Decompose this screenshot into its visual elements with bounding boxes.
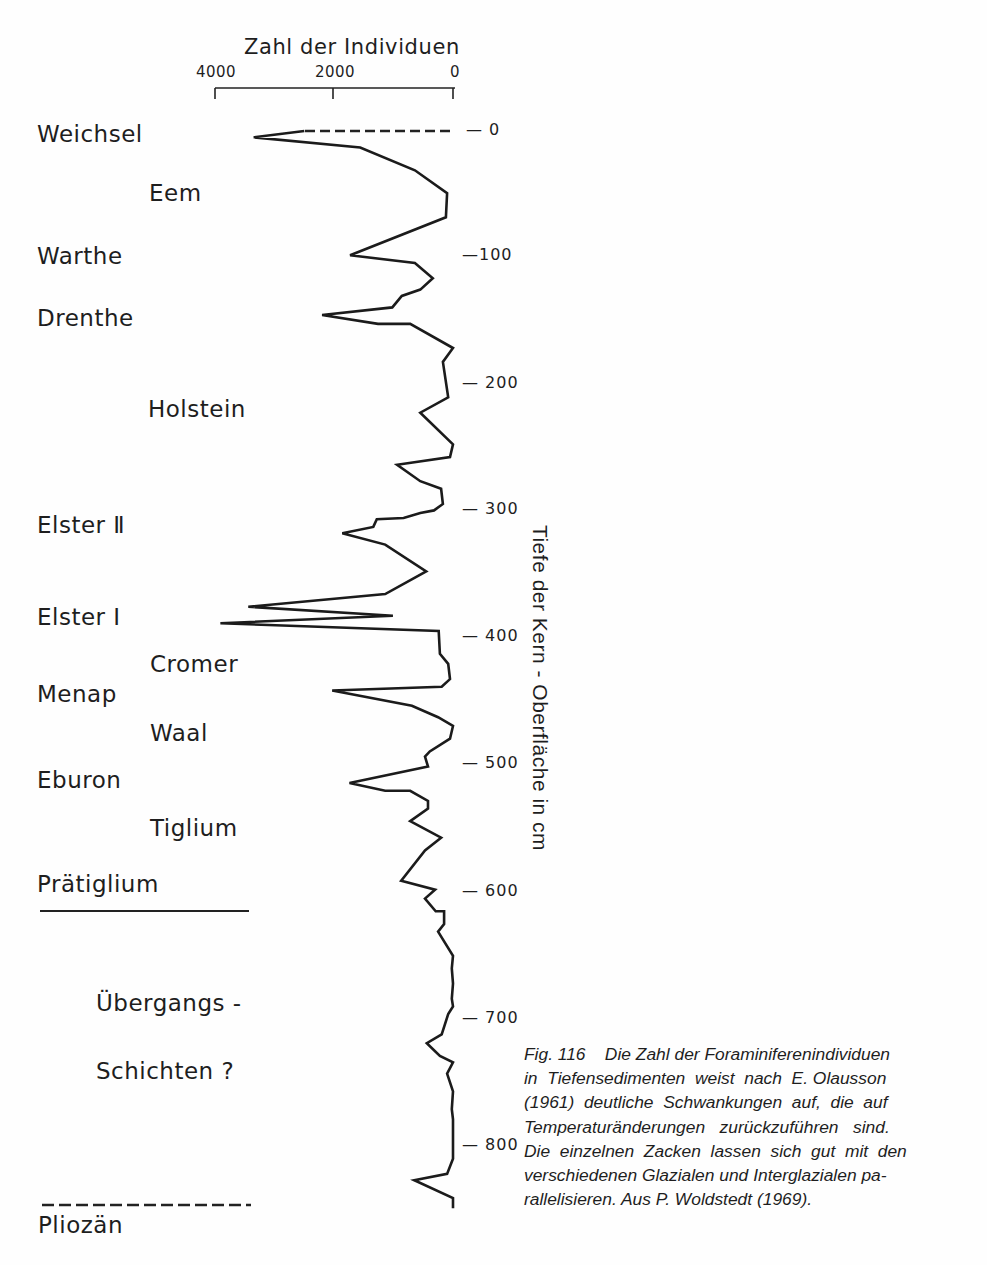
caption-line: rallelisieren. Aus P. Woldstedt (1969). bbox=[524, 1187, 982, 1211]
caption-line: in Tiefensedimenten weist nach E. Olauss… bbox=[524, 1066, 982, 1090]
y-tick-100: —100 bbox=[462, 245, 513, 264]
stage-waal: Waal bbox=[150, 720, 208, 746]
caption-line: verschiedenen Glazialen und Interglazial… bbox=[524, 1163, 982, 1187]
y-tick-800: — 800 bbox=[462, 1135, 519, 1154]
x-tick-4000: 4000 bbox=[196, 63, 236, 81]
stage-drenthe: Drenthe bbox=[37, 305, 134, 331]
stage-warthe: Warthe bbox=[37, 243, 123, 269]
caption-line: Die einzelnen Zacken lassen sich gut mit… bbox=[524, 1139, 982, 1163]
y-tick-600: — 600 bbox=[462, 881, 519, 900]
stage-weichsel: Weichsel bbox=[37, 121, 143, 147]
stage-schichten: Schichten ? bbox=[96, 1058, 234, 1084]
stage-eem: Eem bbox=[149, 180, 202, 206]
stage-elster-2: Elster Ⅱ bbox=[37, 512, 125, 538]
x-axis-title: Zahl der Individuen bbox=[244, 35, 460, 59]
caption-line: (1961) deutliche Schwankungen auf, die a… bbox=[524, 1090, 982, 1114]
x-axis bbox=[215, 88, 455, 99]
y-tick-400: — 400 bbox=[462, 626, 519, 645]
x-tick-0: 0 bbox=[450, 63, 460, 81]
stage-tiglium: Tiglium bbox=[150, 815, 238, 841]
y-tick-500: — 500 bbox=[462, 753, 519, 772]
stage-menap: Menap bbox=[37, 681, 117, 707]
stage-elster-1: Elster I bbox=[37, 604, 121, 630]
stage-pratiglium: Prätiglium bbox=[37, 871, 159, 897]
stage-cromer: Cromer bbox=[150, 651, 238, 677]
y-tick-0: — 0 bbox=[466, 120, 500, 139]
stage-eburon: Eburon bbox=[37, 767, 121, 793]
caption-line: Temperaturänderungen zurückzuführen sind… bbox=[524, 1115, 982, 1139]
stage-ubergangs: Übergangs - bbox=[96, 990, 242, 1016]
y-tick-200: — 200 bbox=[462, 373, 519, 392]
y-axis-title: Tiefe der Kern - Oberfläche in cm bbox=[528, 525, 552, 851]
figure-caption: Fig. 116 Die Zahl der Foraminiferenindiv… bbox=[524, 1042, 982, 1211]
y-tick-700: — 700 bbox=[462, 1008, 519, 1027]
stage-holstein: Holstein bbox=[148, 396, 246, 422]
caption-line: Fig. 116 Die Zahl der Foraminiferenindiv… bbox=[524, 1042, 982, 1066]
data-line bbox=[220, 131, 453, 1208]
stage-pliozan: Pliozän bbox=[38, 1212, 123, 1238]
y-tick-300: — 300 bbox=[462, 499, 519, 518]
x-tick-2000: 2000 bbox=[315, 63, 355, 81]
